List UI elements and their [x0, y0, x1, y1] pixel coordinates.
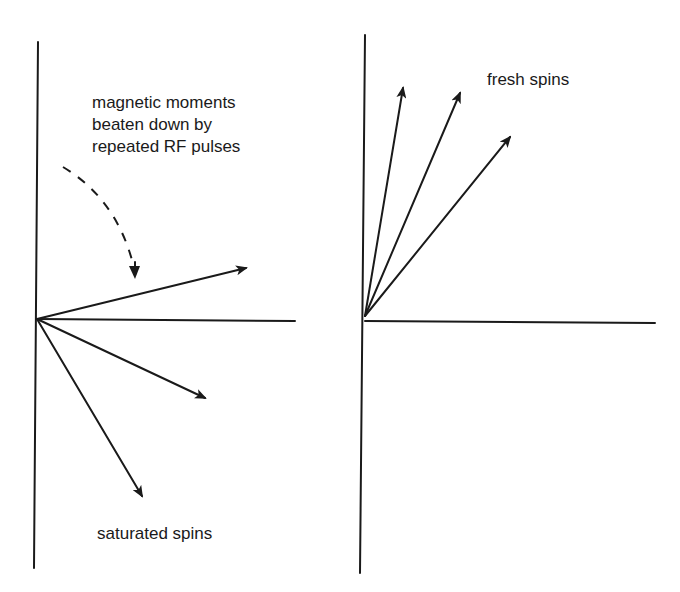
saturated-vector-2 — [37, 319, 205, 398]
fresh-vector-1 — [365, 88, 403, 316]
saturated-vector-1 — [37, 268, 246, 319]
fresh-vector-2 — [365, 93, 460, 316]
saturated-spins-label: saturated spins — [97, 524, 212, 543]
saturated-vector-3 — [37, 319, 142, 496]
fresh-vector-3 — [365, 137, 510, 316]
left-panel: magnetic moments beaten down by repeated… — [34, 42, 295, 568]
annotation-line-1: magnetic moments — [92, 93, 236, 112]
fresh-spins-label: fresh spins — [487, 70, 569, 89]
annotation-line-3: repeated RF pulses — [92, 137, 240, 156]
spin-diagram: magnetic moments beaten down by repeated… — [0, 0, 680, 592]
annotation-line-2: beaten down by — [92, 115, 213, 134]
left-vertical-axis — [34, 42, 38, 568]
right-panel: fresh spins — [360, 35, 655, 573]
right-horizontal-axis — [365, 321, 655, 323]
right-vertical-axis — [360, 35, 365, 573]
left-horizontal-axis — [37, 319, 295, 321]
rf-pulse-dashed-curve — [63, 167, 134, 268]
